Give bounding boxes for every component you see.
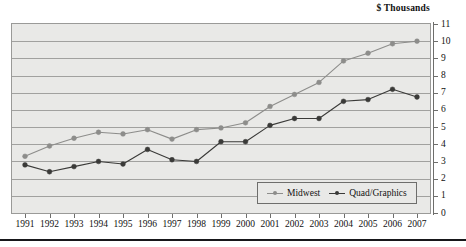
x-axis-label: 2005 <box>359 219 378 230</box>
x-axis-label: 1996 <box>138 219 157 230</box>
x-axis-label: 2000 <box>236 219 255 230</box>
legend-label: Midwest <box>287 188 320 198</box>
y-axis-tick <box>433 24 438 25</box>
y-axis-label: 2 <box>441 173 446 183</box>
legend-item-midwest[interactable]: Midwest <box>267 188 320 198</box>
x-axis-tick <box>50 214 51 218</box>
y-axis-label: 6 <box>441 104 446 114</box>
x-axis-label: 2006 <box>383 219 402 230</box>
x-axis-tick <box>319 214 320 218</box>
y-axis-label: 7 <box>441 87 446 97</box>
x-axis-label: 2001 <box>261 219 280 230</box>
y-axis-tick <box>433 93 438 94</box>
x-axis-label: 2007 <box>408 219 427 230</box>
x-axis-tick <box>368 214 369 218</box>
y-axis-tick <box>433 144 438 145</box>
y-axis-tick <box>433 196 438 197</box>
y-axis-label: 10 <box>441 36 451 46</box>
y-axis-label: 8 <box>441 70 446 80</box>
x-axis-label: 2003 <box>310 219 329 230</box>
x-axis-label: 2004 <box>334 219 353 230</box>
legend-item-quad-graphics[interactable]: Quad/Graphics <box>329 188 407 198</box>
x-axis-label: 1991 <box>16 219 35 230</box>
chart-legend: Midwest Quad/Graphics <box>257 182 417 204</box>
x-axis-tick <box>344 214 345 218</box>
x-axis-tick <box>99 214 100 218</box>
y-axis-label: 5 <box>441 122 446 132</box>
x-axis-tick <box>417 214 418 218</box>
x-axis-tick <box>221 214 222 218</box>
y-axis-tick <box>433 127 438 128</box>
y-axis-label: 4 <box>441 139 446 149</box>
x-axis-tick <box>74 214 75 218</box>
y-axis-label: 0 <box>441 208 446 218</box>
x-axis-label: 1995 <box>114 219 133 230</box>
x-axis-tick <box>197 214 198 218</box>
x-axis-label: 1998 <box>187 219 206 230</box>
legend-marker-icon <box>329 189 345 197</box>
y-axis-label: 1 <box>441 190 446 200</box>
y-axis-tick <box>433 58 438 59</box>
y-axis-label: 11 <box>441 19 450 29</box>
x-axis-tick <box>393 214 394 218</box>
x-axis-tick <box>246 214 247 218</box>
y-axis-label: 3 <box>441 156 446 166</box>
x-axis-label: 1997 <box>163 219 182 230</box>
x-axis-label: 1999 <box>212 219 231 230</box>
y-axis-tick <box>433 41 438 42</box>
x-axis-tick <box>25 214 26 218</box>
footer-rule <box>0 239 466 241</box>
x-axis-tick <box>172 214 173 218</box>
y-axis-tick <box>433 110 438 111</box>
x-axis-tick <box>148 214 149 218</box>
y-axis-tick <box>433 179 438 180</box>
y-axis-line <box>433 22 434 215</box>
legend-label: Quad/Graphics <box>349 188 407 198</box>
x-axis-tick <box>123 214 124 218</box>
x-axis-label: 1994 <box>89 219 108 230</box>
y-axis-tick <box>433 76 438 77</box>
x-axis-label: 1993 <box>65 219 84 230</box>
chart-figure: $ Thousands 01234567891011 1991199219931… <box>0 0 466 247</box>
y-axis-tick <box>433 213 438 214</box>
legend-marker-icon <box>267 189 283 197</box>
y-axis-tick <box>433 162 438 163</box>
x-axis-label: 2002 <box>285 219 304 230</box>
chart-title: $ Thousands <box>376 3 430 13</box>
x-axis-tick <box>270 214 271 218</box>
y-axis-label: 9 <box>441 53 446 63</box>
x-axis-label: 1992 <box>40 219 59 230</box>
x-axis-tick <box>295 214 296 218</box>
